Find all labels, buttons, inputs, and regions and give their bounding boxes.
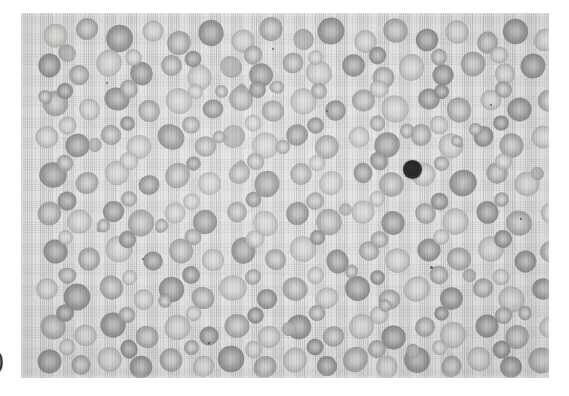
debris-speck: [272, 48, 274, 50]
red-blood-cell: [212, 82, 230, 100]
red-blood-cell: [249, 80, 266, 97]
debris-speck: [520, 218, 522, 220]
dark-stained-object: [403, 160, 422, 179]
page-canvas: ): [0, 0, 569, 396]
red-blood-cell: [136, 173, 162, 198]
red-blood-cell: [32, 274, 62, 304]
blood-smear-photomicrograph: [21, 13, 549, 378]
red-blood-cell: [74, 94, 103, 124]
red-blood-cell: [510, 246, 539, 275]
red-blood-cell: [66, 208, 92, 234]
debris-speck: [490, 104, 492, 106]
red-blood-cell: [140, 249, 165, 274]
debris-speck: [208, 342, 210, 344]
debris-speck: [430, 266, 433, 269]
red-blood-cell: [492, 115, 509, 132]
red-blood-cell: [367, 267, 386, 286]
red-blood-cell: [538, 315, 549, 338]
red-blood-cell: [197, 19, 224, 47]
red-blood-cell: [527, 121, 549, 153]
red-blood-cell: [533, 85, 549, 116]
red-blood-cell: [353, 162, 374, 184]
erythrocyte-field: [21, 13, 549, 378]
red-blood-cell: [139, 17, 166, 44]
red-blood-cell: [196, 323, 223, 350]
red-blood-cell: [227, 202, 247, 223]
red-blood-cell: [384, 247, 411, 273]
red-blood-cell: [70, 354, 92, 377]
red-blood-cell: [434, 306, 449, 321]
red-blood-cell: [464, 343, 494, 374]
red-blood-cell: [77, 246, 101, 271]
red-blood-cell: [305, 265, 324, 285]
red-blood-cell: [181, 337, 202, 358]
red-blood-cell: [130, 286, 156, 313]
red-blood-cell: [242, 112, 264, 134]
red-blood-cell: [57, 229, 73, 245]
red-blood-cell: [217, 345, 245, 373]
red-blood-cell: [531, 277, 549, 301]
red-blood-cell: [376, 355, 398, 378]
red-blood-cell: [441, 16, 472, 48]
red-blood-cell: [219, 275, 247, 301]
red-blood-cell: [120, 191, 137, 207]
red-blood-cell: [516, 49, 549, 84]
red-blood-cell: [289, 25, 316, 53]
red-blood-cell: [224, 313, 250, 338]
red-blood-cell: [378, 13, 412, 47]
red-blood-cell: [202, 99, 224, 119]
red-blood-cell: [38, 53, 61, 77]
red-blood-cell: [56, 264, 78, 285]
red-blood-cell: [491, 268, 510, 286]
red-blood-cell: [539, 201, 549, 225]
red-blood-cell: [518, 306, 532, 321]
red-blood-cell: [500, 15, 531, 46]
red-blood-cell: [72, 14, 103, 45]
red-blood-cell: [370, 230, 388, 247]
red-blood-cell: [397, 52, 425, 81]
red-blood-cell: [313, 13, 349, 49]
red-blood-cell: [72, 168, 103, 198]
red-blood-cell: [527, 346, 549, 374]
red-blood-cell: [257, 15, 284, 43]
red-blood-cell: [158, 346, 185, 374]
red-blood-cell: [260, 98, 287, 124]
red-blood-cell: [57, 115, 76, 134]
red-blood-cell: [73, 323, 98, 347]
red-blood-cell: [216, 52, 246, 83]
debris-speck: [326, 110, 328, 112]
red-blood-cell: [445, 165, 481, 201]
red-blood-cell: [340, 52, 366, 78]
red-blood-cell: [180, 115, 201, 135]
red-blood-cell: [244, 340, 261, 358]
red-blood-cell: [314, 353, 339, 378]
red-blood-cell: [309, 155, 326, 171]
red-blood-cell: [538, 239, 549, 264]
red-blood-cell: [439, 353, 464, 378]
red-blood-cell: [87, 137, 102, 152]
debris-speck: [142, 258, 144, 260]
red-blood-cell: [347, 125, 370, 148]
red-blood-cell: [338, 341, 373, 376]
red-blood-cell: [280, 274, 311, 304]
red-blood-cell: [197, 171, 220, 194]
red-blood-cell: [96, 218, 110, 232]
red-blood-cell: [260, 244, 289, 273]
red-blood-cell: [197, 244, 228, 275]
red-blood-cell: [182, 266, 201, 285]
red-blood-cell: [529, 24, 549, 56]
red-blood-cell: [505, 95, 534, 124]
red-blood-cell: [135, 97, 163, 125]
red-blood-cell: [35, 125, 59, 148]
red-blood-cell: [279, 49, 307, 77]
figure-label-partial: ): [0, 345, 4, 375]
red-blood-cell: [57, 337, 77, 358]
debris-speck: [106, 82, 108, 84]
